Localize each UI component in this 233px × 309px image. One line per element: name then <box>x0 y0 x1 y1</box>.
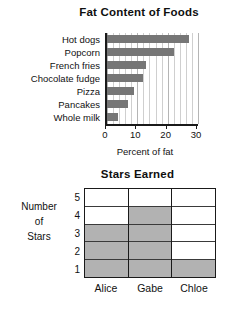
stars-chart-column <box>85 189 129 277</box>
fat-chart-bar-row <box>107 98 198 111</box>
stars-chart-cell <box>129 242 172 260</box>
fat-chart-bar <box>107 113 118 121</box>
stars-chart-column <box>172 189 215 277</box>
fat-chart-bar <box>107 48 174 56</box>
fat-chart-bar-row <box>107 46 198 59</box>
fat-chart-category-label: Pizza <box>2 85 103 98</box>
stars-chart-cell <box>172 260 215 277</box>
fat-chart-category-labels: Hot dogsPopcornFrench friesChocolate fud… <box>2 33 103 124</box>
stars-chart-cell <box>172 189 215 207</box>
stars-chart-cell <box>85 260 128 277</box>
stars-chart-cell <box>85 189 128 207</box>
fat-chart-gridline <box>198 33 199 124</box>
fat-chart-x-axis: 0102030 <box>105 126 196 140</box>
fat-chart-body: Hot dogsPopcornFrench friesChocolate fud… <box>0 33 233 133</box>
stars-chart-y-tick-label: 1 <box>68 260 82 278</box>
stars-chart-cell <box>85 242 128 260</box>
fat-chart-bar-row <box>107 111 198 124</box>
stars-chart-cell <box>129 207 172 225</box>
fat-chart-x-tick-label: 30 <box>191 129 202 140</box>
stars-chart-y-axis-title: NumberofStars <box>8 199 70 244</box>
stars-chart-y-axis-title-line: Number <box>8 199 70 214</box>
stars-chart-cell <box>85 225 128 243</box>
stars-chart-title: Stars Earned <box>55 168 220 180</box>
fat-chart-bars <box>107 33 198 124</box>
stars-chart-x-tick-label: Gabe <box>128 280 172 296</box>
stars-chart-cell <box>129 225 172 243</box>
fat-chart-bar <box>107 100 128 108</box>
stars-chart-cell <box>172 225 215 243</box>
fat-chart-category-label: Pancakes <box>2 98 103 111</box>
fat-chart-bar <box>107 35 189 43</box>
fat-chart-x-axis-title: Percent of fat <box>60 146 230 157</box>
fat-chart-bar-row <box>107 59 198 72</box>
fat-chart-bar <box>107 74 143 82</box>
stars-chart-y-tick-label: 2 <box>68 242 82 260</box>
stars-chart-column <box>129 189 173 277</box>
stars-chart-x-tick-label: Chloe <box>172 280 216 296</box>
fat-chart-x-tick-label: 0 <box>102 129 107 140</box>
fat-chart-title: Fat Content of Foods <box>55 6 223 18</box>
stars-chart-x-axis-labels: AliceGabeChloe <box>84 280 216 296</box>
stars-chart-y-axis-title-line: Stars <box>8 229 70 244</box>
stars-chart-y-tick-label: 4 <box>68 206 82 224</box>
stars-chart-plot-area <box>84 188 216 278</box>
stars-chart-x-tick-label: Alice <box>84 280 128 296</box>
stars-chart-y-tick-label: 3 <box>68 224 82 242</box>
stars-chart-cell <box>85 207 128 225</box>
stars-chart-cell <box>172 207 215 225</box>
fat-chart-bar <box>107 87 134 95</box>
stars-chart-cell <box>129 260 172 277</box>
fat-chart-plot-area <box>105 33 198 126</box>
fat-chart-category-label: French fries <box>2 59 103 72</box>
stars-earned-chart: Stars Earned NumberofStars 54321 AliceGa… <box>0 166 233 309</box>
stars-chart-cell <box>172 242 215 260</box>
stars-chart-y-axis-title-line: of <box>8 214 70 229</box>
fat-content-bar-chart: Fat Content of Foods Hot dogsPopcornFren… <box>0 0 233 158</box>
fat-chart-bar <box>107 61 146 69</box>
fat-chart-category-label: Hot dogs <box>2 33 103 46</box>
fat-chart-bar-row <box>107 85 198 98</box>
fat-chart-x-tick-label: 20 <box>160 129 171 140</box>
stars-chart-cell <box>129 189 172 207</box>
worksheet-page: Fat Content of Foods Hot dogsPopcornFren… <box>0 0 233 309</box>
fat-chart-category-label: Chocolate fudge <box>2 72 103 85</box>
fat-chart-category-label: Whole milk <box>2 111 103 124</box>
fat-chart-bar-row <box>107 72 198 85</box>
fat-chart-bar-row <box>107 33 198 46</box>
stars-chart-y-tick-label: 5 <box>68 188 82 206</box>
fat-chart-category-label: Popcorn <box>2 46 103 59</box>
stars-chart-y-axis-labels: 54321 <box>68 188 82 278</box>
fat-chart-x-tick-label: 10 <box>130 129 141 140</box>
